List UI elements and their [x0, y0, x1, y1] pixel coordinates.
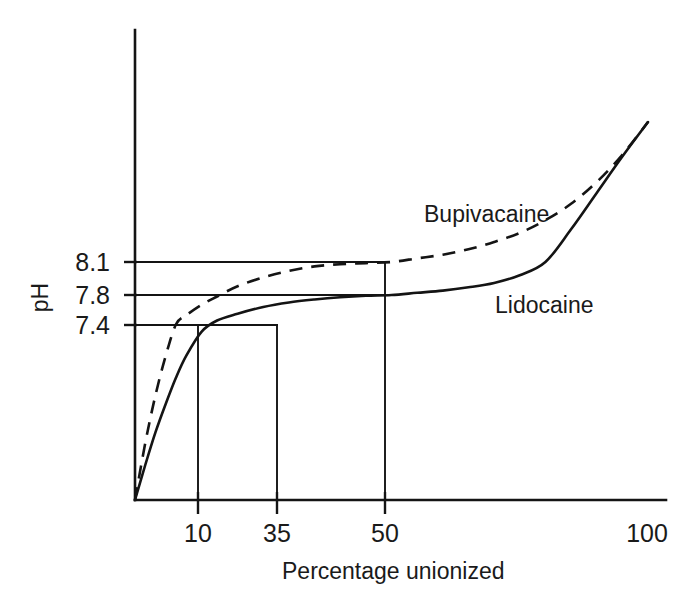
series-label-lidocaine: Lidocaine: [495, 294, 593, 317]
x-tick-label-35: 35: [242, 521, 312, 546]
x-tick-marks: [198, 492, 385, 514]
axes-group: [135, 30, 666, 500]
x-axis-title: Percentage unionized: [282, 560, 505, 583]
y-axis-title: pH: [29, 280, 52, 316]
chart-figure: 8.1 7.8 7.4 pH 10 35 50 100 Percentage u…: [0, 0, 685, 607]
y-tick-label-7-8: 7.8: [48, 283, 110, 308]
y-tick-label-8-1: 8.1: [48, 250, 110, 275]
y-tick-label-7-4: 7.4: [48, 313, 110, 338]
x-tick-label-50: 50: [350, 521, 420, 546]
x-tick-label-10: 10: [163, 521, 233, 546]
series-label-bupivacaine: Bupivacaine: [424, 203, 549, 226]
x-tick-label-100: 100: [612, 521, 682, 546]
